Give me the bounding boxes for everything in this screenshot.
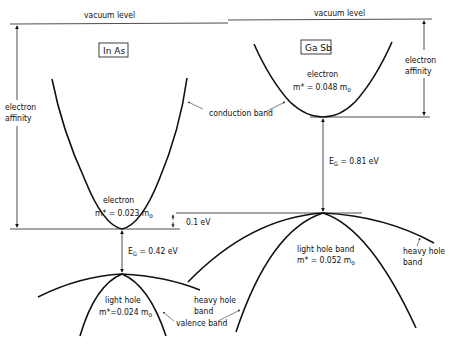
conduction-band-pointer-right <box>265 102 285 112</box>
inas-light-hole-label: light hole <box>105 295 141 305</box>
inas-electron-affinity-label: electron <box>5 102 36 112</box>
inas-title: In As <box>103 46 125 56</box>
inas-electron-mass: m* = 0.023 mo <box>95 208 153 220</box>
svg-text:affinity: affinity <box>5 113 32 123</box>
valence-band-pointer-left <box>163 312 174 321</box>
band-diagram: vacuum level vacuum level In As Ga Sb el… <box>0 0 452 344</box>
valence-band-label: valence band <box>176 318 228 328</box>
inas-bandgap-label: EG = 0.42 eV <box>128 246 178 257</box>
gasb-heavy-hole-label: heavy hole <box>403 246 445 256</box>
vacuum-level-line-gasb <box>228 19 432 20</box>
gasb-electron-affinity-label: electron <box>405 55 436 65</box>
offset-label: 0.1 eV <box>186 217 211 227</box>
gasb-conduction-band-curve <box>254 42 392 117</box>
inas-electron-label: electron <box>103 195 134 205</box>
conduction-band-label: conduction band <box>209 108 273 118</box>
inas-heavy-hole-band-curve <box>38 274 200 297</box>
svg-text:band: band <box>194 306 213 316</box>
vacuum-level-label-right: vacuum level <box>314 8 365 18</box>
inas-light-hole-band-curve <box>80 274 166 336</box>
svg-text:band: band <box>403 257 422 267</box>
gasb-heavy-hole-pointer <box>417 238 420 246</box>
gasb-light-hole-mass: m* = 0.052 mo <box>297 255 355 267</box>
gasb-bandgap-label: EG = 0.81 eV <box>329 156 379 167</box>
inas-light-hole-mass: m*=0.024 mo <box>99 307 152 319</box>
inas-heavy-hole-label: heavy hole <box>194 295 236 305</box>
gasb-electron-mass: m* = 0.048 mo <box>293 82 351 94</box>
gasb-title: Ga Sb <box>305 43 332 53</box>
inas-conduction-band-curve <box>52 78 187 229</box>
vacuum-level-label-left: vacuum level <box>84 10 135 20</box>
conduction-band-pointer-left <box>188 102 203 109</box>
gasb-electron-label: electron <box>307 69 338 79</box>
gasb-light-hole-label: light hole band <box>297 244 355 254</box>
valence-band-pointer-right <box>218 310 240 321</box>
svg-text:affinity: affinity <box>405 66 432 76</box>
vacuum-level-line-inas <box>10 23 228 24</box>
gasb-light-hole-band-curve <box>236 213 416 332</box>
